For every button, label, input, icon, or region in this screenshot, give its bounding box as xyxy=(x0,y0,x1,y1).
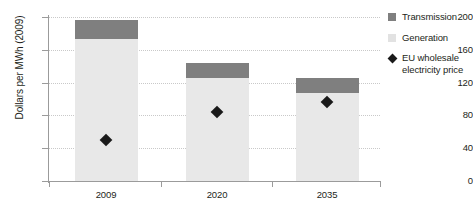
generation-swatch-icon xyxy=(388,34,396,42)
bar-2035 xyxy=(296,78,359,181)
bar-segment-transmission xyxy=(186,63,249,78)
bar-segment-transmission xyxy=(75,20,138,39)
x-axis-line xyxy=(48,181,381,182)
bar-segment-transmission xyxy=(296,78,359,94)
bars-layer xyxy=(49,17,380,181)
x-tick xyxy=(380,181,381,187)
legend-label: Generation xyxy=(402,32,448,44)
legend-label: EU wholesale electricity price xyxy=(402,52,473,75)
y-tick xyxy=(42,83,49,84)
bar-segment-generation xyxy=(75,39,138,181)
bar-2020 xyxy=(186,63,249,181)
chart-legend: TransmissionGenerationEU wholesale elect… xyxy=(388,11,473,84)
stacked-bar-chart: Dollars per MWh (2009) 04080120160200 20… xyxy=(0,0,473,206)
transmission-swatch-icon xyxy=(388,13,396,21)
bar-segment-generation xyxy=(186,78,249,181)
x-tick xyxy=(161,181,162,187)
y-axis-title: Dollars per MWh (2009) xyxy=(14,0,25,138)
bar-2009 xyxy=(75,20,138,181)
legend-item-1: Transmission xyxy=(388,11,473,23)
y-tick xyxy=(42,181,49,182)
x-tick xyxy=(272,181,273,187)
x-tick-label-2009: 2009 xyxy=(76,189,136,200)
y-tick-label: 80 xyxy=(433,109,473,120)
legend-item-3: EU wholesale electricity price xyxy=(388,52,473,75)
legend-item-2: Generation xyxy=(388,32,473,44)
y-tick-label: 0 xyxy=(433,175,473,186)
y-tick xyxy=(42,50,49,51)
x-tick-label-2035: 2035 xyxy=(297,189,357,200)
y-tick xyxy=(42,115,49,116)
price-diamond-icon xyxy=(388,54,398,64)
x-tick-label-2020: 2020 xyxy=(187,189,247,200)
y-tick-label: 40 xyxy=(433,142,473,153)
legend-label: Transmission xyxy=(402,11,457,23)
y-tick xyxy=(42,148,49,149)
y-tick xyxy=(42,17,49,18)
x-tick xyxy=(49,181,50,187)
